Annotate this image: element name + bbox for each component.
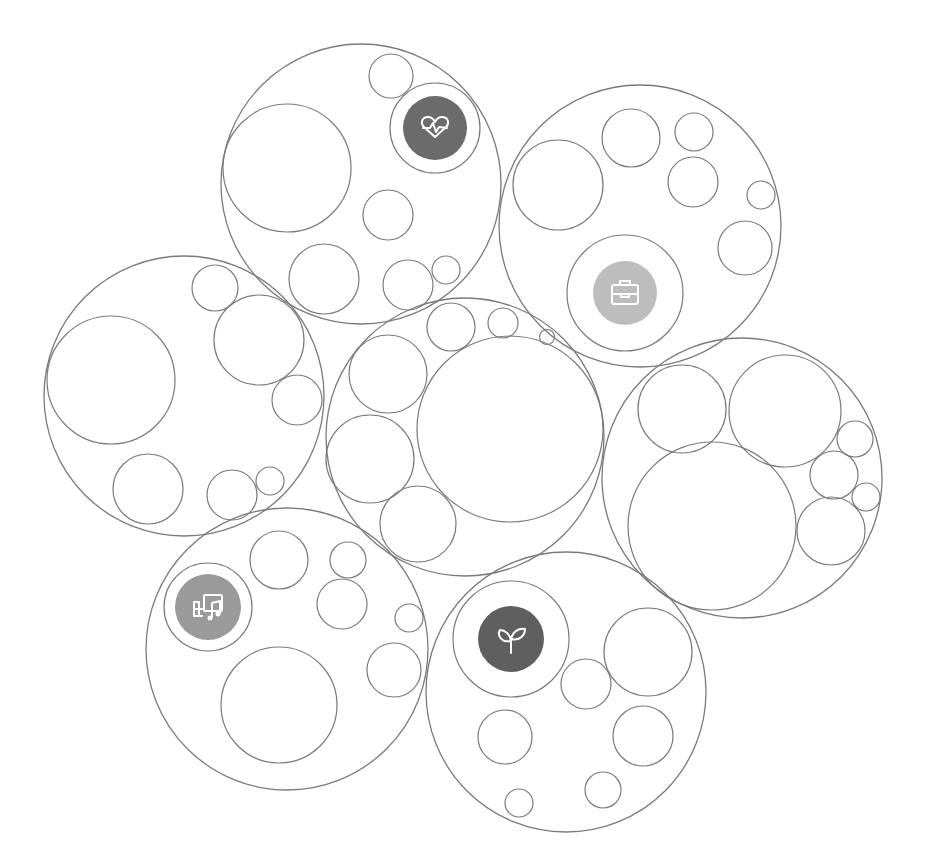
- leaf-circle[interactable]: [604, 608, 692, 696]
- icon-badge: [175, 574, 241, 640]
- leaf-circle[interactable]: [718, 221, 772, 275]
- group-center: [326, 298, 604, 576]
- leaf-circle[interactable]: [613, 706, 673, 766]
- leaf-circle[interactable]: [797, 497, 865, 565]
- leaf-circle[interactable]: [363, 190, 413, 240]
- group-misc-left: [44, 256, 324, 536]
- leaf-circle[interactable]: [602, 109, 660, 167]
- leaf-circle[interactable]: [317, 579, 367, 629]
- leaf-circle[interactable]: [638, 365, 726, 453]
- leaf-circle[interactable]: [221, 647, 337, 763]
- leaf-circle[interactable]: [289, 244, 359, 314]
- leaf-circle[interactable]: [380, 486, 456, 562]
- leaf-circle[interactable]: [367, 643, 421, 697]
- leaf-circle[interactable]: [272, 375, 322, 425]
- leaf-circle[interactable]: [488, 308, 518, 338]
- leaf-circle[interactable]: [837, 421, 873, 457]
- leaf-circle[interactable]: [478, 710, 532, 764]
- leaf-circle[interactable]: [747, 181, 775, 209]
- leaf-circle[interactable]: [256, 467, 284, 495]
- leaf-circle[interactable]: [513, 140, 603, 230]
- leaf-circle[interactable]: [47, 316, 175, 444]
- leaf-circle[interactable]: [675, 113, 713, 151]
- leaf-circle[interactable]: [505, 789, 533, 817]
- circle-packing-diagram: [0, 0, 925, 866]
- leaf-circle[interactable]: [668, 157, 718, 207]
- group-health: [221, 44, 501, 324]
- leaf-circle[interactable]: [417, 336, 603, 522]
- leaf-circle[interactable]: [330, 542, 366, 578]
- leaf-circle[interactable]: [810, 451, 858, 499]
- groups-layer: [44, 44, 882, 832]
- leaf-circle[interactable]: [383, 260, 433, 310]
- leaf-circle[interactable]: [214, 295, 304, 385]
- leaf-circle[interactable]: [427, 303, 475, 351]
- leaf-circle[interactable]: [250, 531, 308, 589]
- group-entertainment: [146, 508, 428, 790]
- leaf-circle[interactable]: [432, 256, 460, 284]
- leaf-circle[interactable]: [113, 454, 183, 524]
- group-work: [499, 85, 781, 367]
- leaf-circle[interactable]: [540, 330, 555, 345]
- leaf-circle[interactable]: [223, 104, 351, 232]
- leaf-circle[interactable]: [585, 772, 621, 808]
- leaf-circle[interactable]: [369, 54, 413, 98]
- leaf-circle[interactable]: [349, 335, 427, 413]
- leaf-circle[interactable]: [395, 604, 423, 632]
- leaf-circle[interactable]: [852, 483, 880, 511]
- leaf-circle[interactable]: [628, 442, 796, 610]
- leaf-circle[interactable]: [561, 659, 611, 709]
